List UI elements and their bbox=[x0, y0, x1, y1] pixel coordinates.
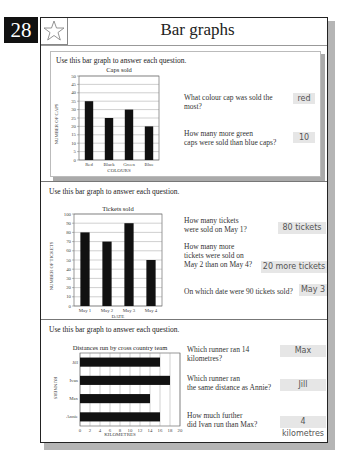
question-2-3: On which date were 90 tickets sold? bbox=[184, 287, 293, 296]
svg-text:40: 40 bbox=[71, 90, 76, 95]
section-1: Use this bar graph to answer each questi… bbox=[50, 51, 321, 177]
svg-text:NUMBER OF CAPS: NUMBER OF CAPS bbox=[54, 103, 59, 144]
answer-field-2-3[interactable]: May 3 bbox=[299, 284, 327, 296]
svg-text:0: 0 bbox=[79, 428, 82, 433]
svg-text:Blue: Blue bbox=[144, 162, 153, 167]
question-3-2: Which runner ran the same distance as An… bbox=[187, 374, 271, 392]
star-icon bbox=[41, 18, 68, 45]
answer-field-2-1[interactable]: 80 tickets bbox=[278, 222, 326, 234]
distances-chart: Distances run by cross country team 0246… bbox=[44, 343, 184, 439]
svg-text:10: 10 bbox=[71, 141, 76, 146]
svg-text:Caps sold: Caps sold bbox=[106, 66, 132, 73]
svg-text:35: 35 bbox=[71, 99, 76, 104]
svg-text:15: 15 bbox=[71, 132, 76, 137]
svg-text:60: 60 bbox=[66, 248, 71, 253]
svg-text:20: 20 bbox=[178, 428, 183, 433]
svg-text:COLOURS: COLOURS bbox=[107, 168, 131, 173]
svg-text:0: 0 bbox=[74, 158, 77, 163]
answer-field-3-2[interactable]: Jill bbox=[280, 379, 326, 391]
answer-field-3-1[interactable]: Max bbox=[280, 345, 326, 357]
question-3-1: Which runner ran 14 kilometres? bbox=[187, 345, 249, 363]
svg-text:May 3: May 3 bbox=[123, 308, 136, 313]
svg-text:2: 2 bbox=[89, 428, 92, 433]
section-divider-2 bbox=[41, 319, 327, 320]
svg-text:14: 14 bbox=[148, 428, 153, 433]
svg-text:40: 40 bbox=[66, 267, 71, 272]
svg-text:RUNNERS: RUNNERS bbox=[53, 377, 58, 400]
worksheet: Bar graphs Use this bar graph to answer … bbox=[40, 17, 328, 443]
header-divider bbox=[41, 45, 327, 46]
svg-text:May 1: May 1 bbox=[79, 308, 92, 313]
page-title: Bar graphs bbox=[68, 20, 327, 40]
svg-text:90: 90 bbox=[66, 221, 71, 226]
question-1-1: What colour cap was sold the most? bbox=[184, 93, 273, 111]
svg-text:KILOMETRES: KILOMETRES bbox=[104, 432, 136, 437]
question-1-2: How many more green caps were sold than … bbox=[184, 129, 276, 147]
section-3-instruction: Use this bar graph to answer each questi… bbox=[49, 325, 179, 334]
caps-sold-chart: Caps sold 05101520253035404550RedBlackGr… bbox=[51, 64, 181, 176]
svg-text:80: 80 bbox=[66, 230, 71, 235]
svg-text:Max: Max bbox=[69, 396, 78, 401]
svg-text:25: 25 bbox=[71, 116, 76, 121]
svg-text:20: 20 bbox=[66, 285, 71, 290]
svg-text:Black: Black bbox=[103, 162, 115, 167]
svg-text:Tickets sold: Tickets sold bbox=[102, 205, 134, 212]
tickets-sold-chart: Tickets sold 0102030405060708090100May 1… bbox=[44, 204, 179, 319]
svg-text:50: 50 bbox=[71, 74, 76, 79]
svg-text:16: 16 bbox=[158, 428, 163, 433]
svg-text:NUMBER OF TICKETS: NUMBER OF TICKETS bbox=[49, 241, 54, 290]
svg-text:45: 45 bbox=[71, 82, 76, 87]
page-number: 28 bbox=[4, 17, 38, 43]
svg-text:Jill: Jill bbox=[72, 360, 79, 365]
svg-text:100: 100 bbox=[64, 212, 72, 217]
answer-field-2-2[interactable]: 20 more tickets bbox=[261, 261, 327, 273]
answer-field-3-3[interactable]: 4 kilometres bbox=[280, 416, 326, 428]
svg-text:20: 20 bbox=[71, 124, 76, 129]
svg-text:Green: Green bbox=[123, 162, 135, 167]
answer-field-1-1[interactable]: red bbox=[293, 93, 315, 104]
svg-text:30: 30 bbox=[66, 276, 71, 281]
question-2-2: How many more tickets were sold on May 2… bbox=[184, 242, 252, 269]
svg-text:30: 30 bbox=[71, 107, 76, 112]
svg-text:5: 5 bbox=[74, 149, 77, 154]
question-3-3: How much further did Ivan run than Max? bbox=[187, 411, 257, 429]
svg-text:50: 50 bbox=[66, 258, 71, 263]
svg-text:Distances run by cross country: Distances run by cross country team bbox=[73, 344, 167, 351]
svg-text:12: 12 bbox=[138, 428, 143, 433]
svg-text:Annie: Annie bbox=[66, 414, 78, 419]
svg-text:Ivan: Ivan bbox=[69, 378, 78, 383]
svg-text:70: 70 bbox=[66, 239, 71, 244]
svg-text:May 4: May 4 bbox=[145, 308, 158, 313]
svg-text:18: 18 bbox=[168, 428, 173, 433]
svg-text:0: 0 bbox=[69, 304, 72, 309]
svg-text:10: 10 bbox=[66, 294, 71, 299]
answer-field-1-2[interactable]: 10 bbox=[293, 132, 315, 143]
section-divider-1 bbox=[41, 181, 327, 182]
question-2-1: How many tickets were sold on May 1? bbox=[184, 216, 247, 234]
svg-text:May 2: May 2 bbox=[101, 308, 114, 313]
section-2-instruction: Use this bar graph to answer each questi… bbox=[49, 187, 179, 196]
svg-text:Red: Red bbox=[85, 162, 93, 167]
svg-text:4: 4 bbox=[99, 428, 102, 433]
